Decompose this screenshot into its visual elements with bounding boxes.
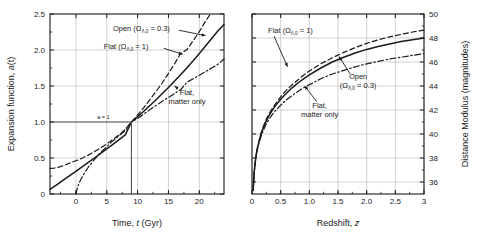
y-tick-label: 46	[429, 58, 438, 67]
x-tick-label: 15	[164, 197, 173, 206]
open-label-line1: Open	[349, 72, 367, 81]
flat-matter-label-line2: matter only	[168, 97, 205, 106]
omega-label: Flat (ΩΛ,0 = 1)	[268, 26, 313, 36]
right-y-axis-title: Distance Modulus (magnitudes)	[460, 41, 470, 168]
y-tick-label: 36	[429, 178, 438, 187]
distance-modulus-panel: 00.51.01.52.02.533638404244464850 Flat (…	[240, 0, 480, 239]
annotation-arrowhead	[175, 86, 179, 90]
x-tick-label: 5	[105, 197, 110, 206]
y-tick-label: 44	[429, 82, 438, 91]
flat-matter-label-line1: Flat,	[312, 101, 327, 110]
x-tick-label: 0	[250, 197, 255, 206]
curve-dash-dot	[253, 54, 424, 191]
right-curves	[253, 30, 424, 190]
y-tick-label: 42	[429, 106, 438, 115]
left-plot-svg: a = 1 0510152000.51.01.52.02.5 Open (ΩΛ,…	[0, 0, 240, 239]
flat-matter-label-line1: Flat,	[180, 88, 195, 97]
x-tick-label: 0.5	[275, 197, 287, 206]
y-tick-label: 2.0	[34, 46, 46, 55]
left-x-axis-title: Time, t (Gyr)	[112, 218, 162, 228]
annotation-arrowhead	[178, 52, 182, 55]
curve-dash-dot	[76, 59, 224, 194]
left-tick-labels: 0510152000.51.01.52.02.5	[34, 10, 204, 206]
omega-label: Open (ΩΛ,0 = 0.3)	[113, 24, 170, 34]
left-y-axis-title: Expansion function, a(t)	[6, 57, 16, 152]
y-tick-label: 40	[429, 130, 438, 139]
y-tick-label: 48	[429, 34, 438, 43]
curve-solid	[253, 38, 424, 190]
right-annotations: Flat (ΩΛ,0 = 1)Open(ΩΛ,0 = 0.3)Flat,matt…	[268, 26, 377, 118]
y-tick-label: 50	[429, 10, 438, 19]
cosmology-figure: a = 1 0510152000.51.01.52.02.5 Open (ΩΛ,…	[0, 0, 480, 239]
y-tick-label: 38	[429, 154, 438, 163]
x-tick-label: 2.0	[361, 197, 373, 206]
flat-matter-label-line2: matter only	[301, 110, 338, 119]
annotation-arrowhead	[201, 33, 205, 36]
y-tick-label: 0.5	[34, 154, 46, 163]
x-tick-label: 2.5	[390, 197, 402, 206]
x-tick-label: 3	[422, 197, 427, 206]
annotation-leader	[179, 30, 206, 35]
right-plot-svg: 00.51.01.52.02.533638404244464850 Flat (…	[240, 0, 480, 239]
curve-dashed	[253, 30, 424, 190]
a-equals-one-label: a = 1	[97, 114, 109, 120]
x-tick-label: 20	[195, 197, 204, 206]
expansion-function-panel: a = 1 0510152000.51.01.52.02.5 Open (ΩΛ,…	[0, 0, 240, 239]
x-tick-label: 0	[74, 197, 79, 206]
y-tick-label: 1.0	[34, 118, 46, 127]
x-tick-label: 10	[133, 197, 142, 206]
right-x-axis-title: Redshift, z	[317, 218, 360, 228]
y-tick-label: 2.5	[34, 10, 46, 19]
y-tick-label: 1.5	[34, 82, 46, 91]
omega-label: (ΩΛ,0 = 0.3)	[340, 81, 377, 91]
y-tick-label: 0	[41, 190, 46, 199]
x-tick-label: 1.5	[332, 197, 344, 206]
x-tick-label: 1.0	[304, 197, 316, 206]
omega-label: Flat (ΩΛ,0 = 1)	[104, 42, 149, 52]
